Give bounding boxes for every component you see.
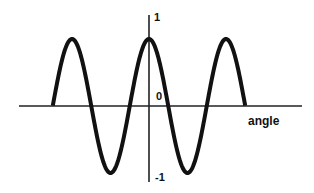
cosine-chart: 1 0 -1 angle — [0, 0, 314, 193]
y-tick-label-min: -1 — [155, 171, 165, 183]
y-tick-label-zero: 0 — [156, 90, 162, 102]
y-tick-label-max: 1 — [154, 11, 160, 23]
x-axis-label: angle — [248, 114, 280, 128]
